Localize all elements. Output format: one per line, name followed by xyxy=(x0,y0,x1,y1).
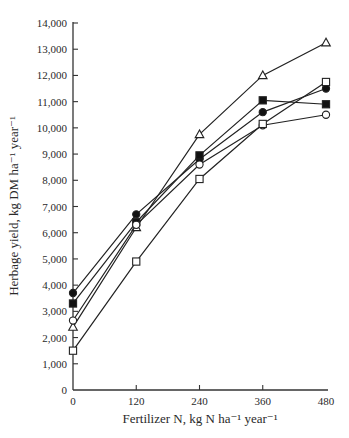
y-tick-label: 3,000 xyxy=(42,305,67,317)
series-square-filled xyxy=(69,97,329,307)
y-tick-label: 8,000 xyxy=(42,174,67,186)
open-square-marker xyxy=(259,120,266,127)
x-tick-label: 240 xyxy=(191,395,208,407)
series-line xyxy=(73,43,326,327)
series-line xyxy=(73,115,326,321)
open-square-marker xyxy=(322,78,329,85)
axes xyxy=(73,22,328,390)
open-triangle-marker xyxy=(258,71,267,79)
y-tick-label: 4,000 xyxy=(42,279,67,291)
series-triangle-open xyxy=(69,38,331,330)
y-ticks: 01,0002,0003,0004,0005,0006,0007,0008,00… xyxy=(37,17,78,396)
open-triangle-marker xyxy=(322,38,331,46)
y-tick-label: 1,000 xyxy=(42,358,67,370)
open-square-marker xyxy=(69,347,76,354)
filled-square-marker xyxy=(259,97,266,104)
y-tick-label: 10,000 xyxy=(37,122,68,134)
filled-circle-marker xyxy=(69,289,76,296)
y-tick-label: 12,000 xyxy=(37,69,68,81)
open-circle-marker xyxy=(322,111,329,118)
open-square-marker xyxy=(133,258,140,265)
filled-square-marker xyxy=(196,152,203,159)
y-tick-label: 7,000 xyxy=(42,201,67,213)
filled-square-marker xyxy=(69,300,76,307)
y-tick-label: 6,000 xyxy=(42,227,67,239)
x-ticks: 0120240360480 xyxy=(70,385,335,407)
series-circle-filled xyxy=(69,85,329,297)
x-axis-title: Fertilizer N, kg N ha⁻¹ year⁻¹ xyxy=(122,411,277,426)
y-tick-label: 2,000 xyxy=(42,332,67,344)
series-square-open xyxy=(69,78,329,354)
x-tick-label: 120 xyxy=(128,395,145,407)
y-tick-label: 11,000 xyxy=(37,96,67,108)
y-tick-label: 5,000 xyxy=(42,253,67,265)
open-circle-marker xyxy=(133,221,140,228)
open-square-marker xyxy=(196,175,203,182)
filled-square-marker xyxy=(322,101,329,108)
data-series xyxy=(69,38,331,354)
y-tick-label: 14,000 xyxy=(37,17,68,29)
series-circle-open xyxy=(69,111,329,324)
y-tick-label: 13,000 xyxy=(37,43,68,55)
y-axis-title: Herbage yield, kg DM ha⁻¹ year⁻¹ xyxy=(6,116,21,296)
x-tick-label: 360 xyxy=(255,395,272,407)
open-circle-marker xyxy=(196,161,203,168)
series-line xyxy=(73,82,326,351)
x-tick-label: 0 xyxy=(70,395,76,407)
herbage-yield-chart: 01,0002,0003,0004,0005,0006,0007,0008,00… xyxy=(0,0,349,438)
y-tick-label: 0 xyxy=(62,384,68,396)
filled-circle-marker xyxy=(259,109,266,116)
x-tick-label: 480 xyxy=(318,395,335,407)
open-circle-marker xyxy=(69,317,76,324)
filled-circle-marker xyxy=(133,211,140,218)
y-tick-label: 9,000 xyxy=(42,148,67,160)
